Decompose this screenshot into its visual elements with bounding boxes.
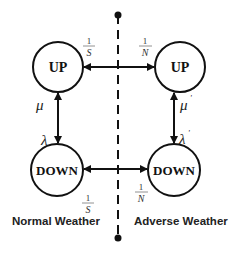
numerator: 1 bbox=[143, 36, 148, 46]
weather-divider bbox=[115, 12, 122, 242]
numerator: 1 bbox=[86, 193, 91, 203]
caption-adverse-weather: Adverse Weather bbox=[134, 215, 228, 227]
caption-normal-weather: Normal Weather bbox=[12, 215, 101, 227]
rate-mu-prime-mark: ' bbox=[190, 94, 192, 103]
node-up-normal: UP bbox=[33, 42, 83, 92]
denominator: N bbox=[141, 47, 150, 58]
denominator: S bbox=[86, 204, 91, 215]
rate-mu: μ bbox=[35, 97, 44, 113]
node-up-adverse-label: UP bbox=[171, 60, 190, 75]
fraction-1-over-n-top: 1 N bbox=[139, 36, 152, 58]
fraction-1-over-s-bottom: 1 S bbox=[82, 193, 94, 215]
rate-lambda-prime: λ bbox=[178, 131, 186, 147]
node-down-adverse-label: DOWN bbox=[153, 163, 196, 178]
denominator: N bbox=[137, 193, 146, 204]
diagram-svg: UP UP DOWN DOWN μ λ μ ' λ ' 1 S 1 N 1 S bbox=[0, 0, 242, 255]
fraction-1-over-s-top: 1 S bbox=[83, 36, 95, 58]
rate-lambda-prime-mark: ' bbox=[188, 129, 190, 138]
numerator: 1 bbox=[139, 182, 144, 192]
numerator: 1 bbox=[87, 36, 92, 46]
node-down-adverse: DOWN bbox=[148, 144, 200, 196]
node-up-normal-label: UP bbox=[49, 60, 68, 75]
rate-mu-prime: μ bbox=[179, 97, 188, 113]
fraction-1-over-n-bottom: 1 N bbox=[135, 182, 148, 204]
node-down-normal: DOWN bbox=[31, 144, 83, 196]
node-up-adverse: UP bbox=[155, 42, 205, 92]
denominator: S bbox=[87, 47, 92, 58]
divider-top-dot bbox=[115, 12, 122, 19]
weather-state-diagram: UP UP DOWN DOWN μ λ μ ' λ ' 1 S 1 N 1 S bbox=[0, 0, 242, 255]
divider-bottom-dot bbox=[115, 235, 122, 242]
rate-lambda: λ bbox=[40, 132, 48, 148]
node-down-normal-label: DOWN bbox=[36, 163, 79, 178]
